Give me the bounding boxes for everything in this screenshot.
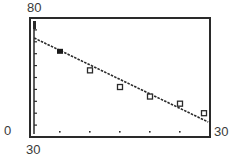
data-point [148,94,153,99]
plot-frame [30,18,210,137]
data-point [178,101,183,106]
data-point [88,68,93,73]
x-tick-dot [149,131,151,133]
x-tick-dot [59,131,61,133]
data-point [202,111,207,116]
scatter-plot [0,0,234,161]
x-tick-dot [89,131,91,133]
data-point [118,85,123,90]
x-tick-dot [209,131,211,133]
x-tick-dot [119,131,121,133]
y-axis-top-mark [33,21,36,29]
data-point [57,49,63,54]
x-tick-dot [179,131,181,133]
